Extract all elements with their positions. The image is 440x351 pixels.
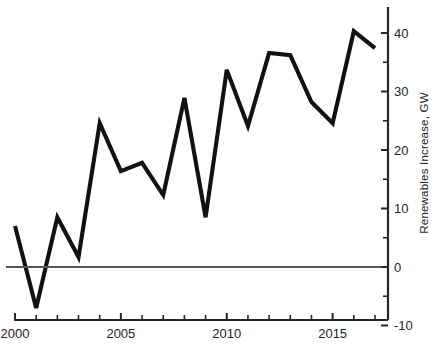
x-tick-label: 2010 (212, 326, 241, 341)
x-tick-label: 2005 (106, 326, 135, 341)
chart-figure: 403020100-10 2000200520102015 Renewables… (0, 0, 440, 351)
y-tick-label: 20 (394, 143, 408, 158)
y-axis-title: Renewables Increase, GW (418, 92, 430, 233)
y-tick-label: 0 (394, 260, 401, 275)
y-tick-label: 30 (394, 84, 408, 99)
y-tick-label: 10 (394, 201, 408, 216)
x-tick-label: 2015 (318, 326, 347, 341)
y-tick-label: -10 (394, 318, 413, 333)
y-tick-label: 40 (394, 26, 408, 41)
y-axis-tick-labels: 403020100-10 (394, 26, 413, 334)
line-chart-canvas: 403020100-10 2000200520102015 Renewables… (0, 0, 440, 351)
x-tick-label: 2000 (1, 326, 30, 341)
x-axis-tick-labels: 2000200520102015 (1, 326, 348, 341)
